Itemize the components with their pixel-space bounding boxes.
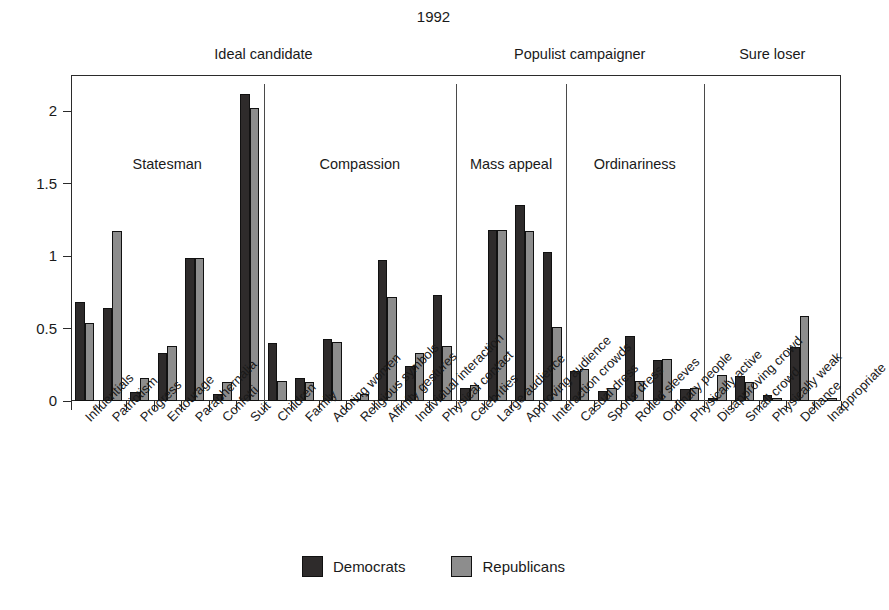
legend-label: Republicans — [482, 558, 565, 575]
bar-democrats — [790, 347, 799, 401]
legend-item: Republicans — [451, 556, 565, 577]
bar-democrats — [75, 302, 84, 401]
legend-item: Democrats — [302, 556, 406, 577]
x-tick-mark — [621, 401, 622, 410]
supergroup-label: Ideal candidate — [71, 46, 456, 68]
x-tick-mark — [484, 401, 485, 410]
bar-republicans — [442, 346, 451, 401]
y-tick-mark — [63, 256, 71, 257]
bar-republicans — [525, 231, 534, 401]
bar-democrats — [653, 360, 662, 401]
bar-republicans — [305, 382, 314, 401]
x-tick-mark — [154, 401, 155, 410]
x-tick-mark — [759, 401, 760, 410]
group-label: Statesman — [71, 156, 264, 172]
bar-republicans — [580, 369, 589, 401]
y-tick-label: 1.5 — [17, 175, 57, 192]
x-tick-mark — [181, 401, 182, 410]
bar-republicans — [772, 398, 781, 401]
x-tick-mark — [346, 401, 347, 410]
x-tick-mark — [236, 401, 237, 410]
x-tick-mark — [814, 401, 815, 410]
x-tick-mark — [786, 401, 787, 410]
bar-democrats — [240, 94, 249, 401]
y-tick-mark — [63, 401, 71, 402]
bar-democrats — [763, 395, 772, 401]
bar-democrats — [543, 252, 552, 401]
bar-republicans — [140, 378, 149, 401]
bar-democrats — [433, 295, 442, 401]
bar-democrats — [185, 258, 194, 401]
bar-democrats — [680, 389, 689, 401]
bar-republicans — [717, 375, 726, 401]
bar-republicans — [827, 398, 836, 401]
x-tick-mark — [731, 401, 732, 410]
x-tick-mark — [456, 401, 457, 410]
y-tick-label: 0.5 — [17, 320, 57, 337]
bar-republicans — [332, 342, 341, 401]
supergroup-label: Populist campaigner — [456, 46, 704, 68]
bar-democrats — [103, 308, 112, 401]
y-tick-label: 1 — [17, 247, 57, 264]
bar-republicans — [250, 108, 259, 401]
x-tick-mark — [126, 401, 127, 410]
group-separator — [456, 84, 457, 401]
x-tick-mark — [99, 401, 100, 410]
bar-republicans — [552, 327, 561, 401]
bar-republicans — [635, 381, 644, 401]
group-separator — [704, 84, 705, 401]
x-tick-mark — [209, 401, 210, 410]
bar-republicans — [85, 323, 94, 401]
legend-swatch-republicans — [451, 556, 472, 577]
bar-republicans — [167, 346, 176, 401]
legend-label: Democrats — [333, 558, 406, 575]
x-tick-mark — [374, 401, 375, 410]
group-label: Compassion — [264, 156, 457, 172]
bar-republicans — [360, 394, 369, 401]
y-axis: 00.511.52 — [20, 0, 71, 610]
bar-republicans — [497, 230, 506, 401]
bar-republicans — [112, 231, 121, 401]
bar-republicans — [277, 381, 286, 401]
bar-democrats — [570, 371, 579, 401]
bar-republicans — [745, 382, 754, 401]
bar-republicans — [690, 388, 699, 401]
bar-republicans — [195, 258, 204, 401]
group-label: Mass appeal — [456, 156, 566, 172]
x-tick-mark — [566, 401, 567, 410]
bar-democrats — [488, 230, 497, 401]
bar-democrats — [515, 205, 524, 401]
group-separator — [566, 84, 567, 401]
x-tick-mark — [264, 401, 265, 410]
x-tick-mark — [594, 401, 595, 410]
bar-democrats — [350, 399, 359, 401]
y-tick-mark — [63, 111, 71, 112]
bar-republicans — [607, 388, 616, 401]
y-tick-mark — [63, 328, 71, 329]
x-axis-label: Suit — [247, 398, 273, 424]
chart-legend: DemocratsRepublicans — [0, 556, 867, 577]
bar-republicans — [387, 297, 396, 401]
x-tick-mark — [676, 401, 677, 410]
bar-republicans — [800, 316, 809, 401]
bar-democrats — [405, 366, 414, 401]
bar-republicans — [415, 353, 424, 401]
y-tick-label: 2 — [17, 102, 57, 119]
bar-democrats — [735, 376, 744, 401]
bar-democrats — [598, 391, 607, 401]
x-tick-mark — [511, 401, 512, 410]
legend-swatch-democrats — [302, 556, 323, 577]
x-tick-mark — [649, 401, 650, 410]
supergroup-label: Sure loser — [704, 46, 842, 68]
bar-democrats — [158, 353, 167, 401]
group-label: Ordinariness — [566, 156, 704, 172]
x-tick-mark — [291, 401, 292, 410]
x-tick-mark — [71, 401, 72, 410]
x-tick-mark — [539, 401, 540, 410]
bar-democrats — [213, 394, 222, 401]
y-tick-label: 0 — [17, 392, 57, 409]
x-tick-mark — [319, 401, 320, 410]
bar-republicans — [662, 359, 671, 401]
bar-republicans — [222, 382, 231, 401]
